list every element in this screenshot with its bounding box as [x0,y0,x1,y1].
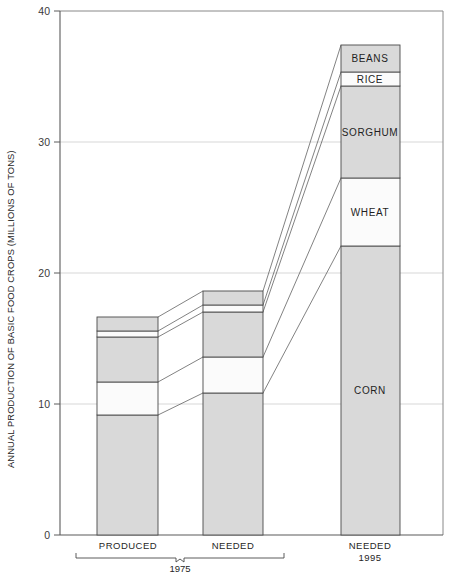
connector-lines-group-1-2 [158,291,203,415]
y-tick-label-0: 0 [44,529,50,541]
connector-rice-2-3 [263,72,341,305]
bar2-segment-rice[interactable] [203,305,263,312]
group-brace-1975 [76,553,284,562]
group-label-1975: 1975 [169,563,190,574]
bar2-segment-wheat[interactable] [203,357,263,393]
bar1-segment-rice[interactable] [97,331,158,337]
connector-beans-2-3 [263,45,341,291]
y-tick-label-30: 30 [38,136,50,148]
bar2-segment-sorghum[interactable] [203,312,263,357]
bar-produced-1975[interactable] [97,317,158,535]
bar1-segment-wheat[interactable] [97,382,158,415]
x-label-needed-1995: NEEDED [349,540,392,551]
x-label-needed-1975: NEEDED [212,540,255,551]
bar2-segment-beans[interactable] [203,291,263,305]
segment-label-wheat: WHEAT [351,207,389,218]
bar1-segment-sorghum[interactable] [97,337,158,382]
x-label-year-1995: 1995 [358,552,381,563]
connector-lines-group-2-3 [263,45,341,393]
bar2-segment-corn[interactable] [203,393,263,535]
y-axis-title: ANNUAL PRODUCTION OF BASIC FOOD CROPS (M… [6,150,16,468]
segment-label-corn: CORN [354,385,386,396]
y-tick-label-10: 10 [38,398,50,410]
bar-needed-1975[interactable] [203,291,263,535]
stacked-bar-chart: ANNUAL PRODUCTION OF BASIC FOOD CROPS (M… [0,0,456,574]
bar1-segment-beans[interactable] [97,317,158,331]
bar-needed-1995[interactable] [341,45,400,535]
connector-sorghum-2-3 [263,86,341,312]
bar1-segment-corn[interactable] [97,415,158,535]
chart-container: ANNUAL PRODUCTION OF BASIC FOOD CROPS (M… [0,0,456,574]
connector-beans-1-2 [158,291,203,317]
connector-rice-1-2 [158,305,203,331]
y-tick-label-20: 20 [38,267,50,279]
segment-label-sorghum: SORGHUM [342,127,398,138]
y-tick-label-40: 40 [38,5,50,17]
connector-sorghum-1-2 [158,312,203,337]
x-label-produced: PRODUCED [99,540,157,551]
segment-label-rice: RICE [357,74,383,85]
segment-label-beans: BEANS [352,53,389,64]
connector-wheat-1-2 [158,357,203,382]
